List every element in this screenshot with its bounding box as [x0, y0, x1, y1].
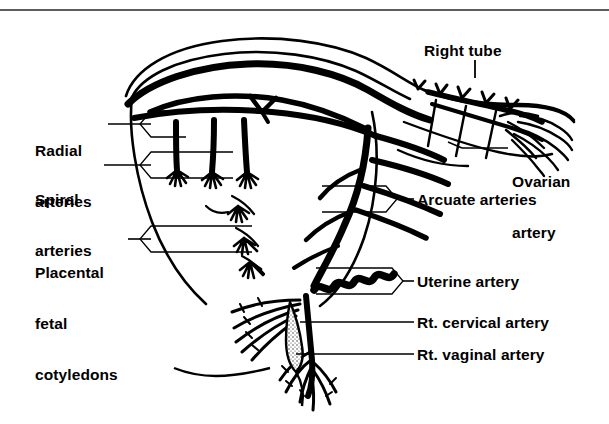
vagina-left-wall: [174, 368, 270, 376]
ovarian-artery-leader-hook: [448, 142, 462, 148]
descending-uterine-trunk: [314, 128, 368, 286]
spiral-artery-tufts: [167, 170, 263, 278]
cervix-outline: [286, 302, 303, 372]
label-placental-cotyledons: Placental fetal cotyledons: [35, 230, 118, 417]
spiral-tuft-2: [202, 172, 223, 188]
fimbria-1: [520, 116, 572, 140]
label-uterine-artery: Uterine artery: [417, 273, 519, 290]
label-right-tube: Right tube: [424, 42, 502, 59]
placental-cotyledons-banner: [140, 226, 252, 252]
radial-artery-1: [176, 122, 177, 170]
label-ovarian-artery-line2: artery: [512, 224, 570, 241]
uterus-left-border: [131, 97, 206, 304]
radial-arteries-group: [176, 120, 247, 172]
spiral-tuft-4: [228, 206, 249, 222]
radial-artery-2: [212, 120, 214, 172]
radial-artery-3: [244, 120, 247, 172]
label-rt-cervical-artery: Rt. cervical artery: [417, 314, 549, 331]
label-placental-cotyledons-line1: Placental: [35, 264, 118, 281]
spiral-tuft-3: [237, 172, 258, 188]
spiral-arteries-banner: [140, 152, 233, 178]
label-placental-cotyledons-line2: fetal: [35, 315, 118, 332]
arcuate-band-mid: [134, 110, 376, 136]
label-arcuate-arteries: Arcuate arteries: [417, 191, 537, 208]
label-placental-cotyledons-line3: cotyledons: [35, 366, 118, 383]
tube-arcade-lower: [432, 104, 542, 140]
label-spiral-arteries-line1: Spiral: [35, 191, 92, 208]
uterine-artery-coil: [314, 274, 394, 290]
cervix-vagina-group: [174, 302, 303, 406]
figure-root: Radial arteries Spiral arteries Placenta…: [0, 0, 609, 424]
arcuate-right-1: [376, 136, 444, 160]
label-rt-vaginal-artery: Rt. vaginal artery: [417, 346, 545, 363]
label-ovarian-artery-line1: Ovarian: [512, 173, 570, 190]
